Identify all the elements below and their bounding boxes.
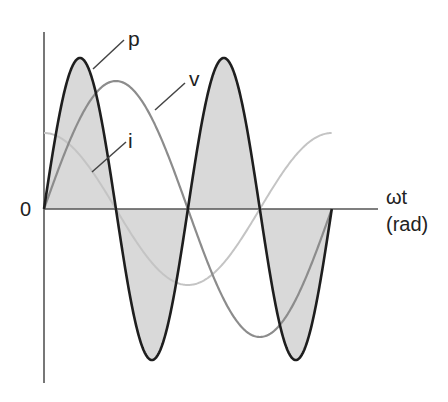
p-label: p xyxy=(128,27,140,50)
x-axis-label-omega-t: ωt xyxy=(386,186,408,208)
v-leader-line xyxy=(155,83,185,110)
origin-label: 0 xyxy=(20,198,31,220)
x-axis-label-unit: (rad) xyxy=(386,213,428,235)
v-label: v xyxy=(189,67,200,90)
p-leader-line xyxy=(93,40,124,69)
i-label: i xyxy=(128,129,133,152)
power-waveform-diagram: p v i 0 ωt (rad) xyxy=(0,0,448,402)
